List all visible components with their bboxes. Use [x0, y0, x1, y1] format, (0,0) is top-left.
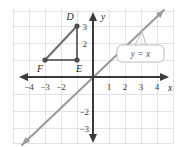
x-tick-label: 2 [123, 82, 128, 92]
x-tick-label: 4 [155, 82, 160, 92]
y-tick-label: 2 [83, 39, 88, 49]
callout-text: y = x [130, 49, 151, 59]
vertex-label-f: F [36, 63, 44, 74]
y-axis-label: y [100, 12, 106, 22]
y-tick-label: 3 [83, 22, 88, 32]
y-tick-label: −2 [79, 107, 89, 117]
x-tick-label: 1 [107, 82, 112, 92]
x-axis-label: x [167, 83, 173, 93]
x-tick-label: −3 [40, 82, 50, 92]
vertex-f [42, 57, 47, 62]
vertex-e [74, 57, 79, 62]
y-tick-label: −3 [79, 124, 89, 134]
coordinate-plane-figure: x y −4 −3 −2 1 2 3 4 3 2 −2 −3 D E F [0, 0, 181, 147]
vertex-label-d: D [65, 11, 74, 22]
x-tick-label: 3 [139, 82, 144, 92]
x-tick-label: −2 [56, 82, 66, 92]
vertex-d [74, 23, 79, 28]
callout-y-equals-x: y = x [117, 45, 164, 62]
graph-svg: x y −4 −3 −2 1 2 3 4 3 2 −2 −3 D E F [0, 0, 181, 147]
vertex-label-e: E [75, 63, 82, 74]
x-tick-label: −4 [24, 82, 34, 92]
